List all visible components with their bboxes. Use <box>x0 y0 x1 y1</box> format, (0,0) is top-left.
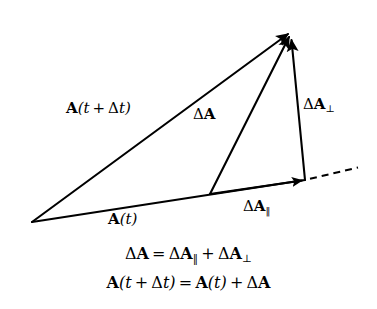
vector-delta-a <box>210 37 289 194</box>
label-delta-a-perpendicular: ΔA⊥ <box>303 97 335 114</box>
vector-delta-a-parallel <box>210 181 302 195</box>
vector-a-t-plus-delta-t <box>32 34 288 222</box>
label-a-t-plus-delta-t: A(t + Δt) <box>66 101 131 116</box>
label-delta-a-parallel: ΔA‖ <box>243 199 271 216</box>
label-a-t: A(t) <box>108 212 137 227</box>
vector-a-t-mid-arrowhead <box>178 196 200 199</box>
label-delta-a: ΔA <box>193 107 215 122</box>
baseline-dashed-extension <box>310 168 358 179</box>
vector-decomposition-figure: A(t + Δt) ΔA ΔA⊥ ΔA‖ A(t) ΔA = ΔA‖ + ΔA⊥… <box>0 0 377 309</box>
equation-line-1: ΔA = ΔA‖ + ΔA⊥ <box>0 246 377 264</box>
equation-line-2: A(t + Δt) = A(t) + ΔA <box>0 275 377 291</box>
